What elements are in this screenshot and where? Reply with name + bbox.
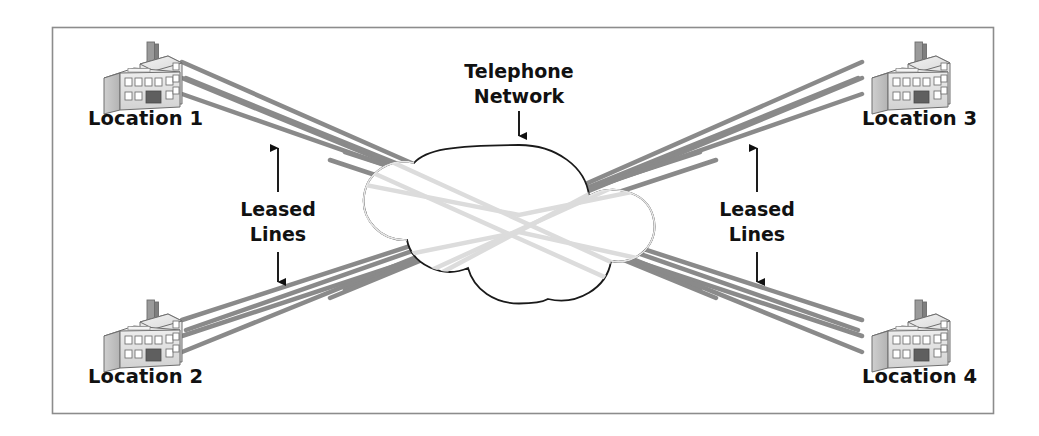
leased-lines-left-label-line2: Lines — [250, 223, 306, 245]
location-label-loc4: Location 4 — [862, 365, 977, 388]
diagram-canvas: Telephone Network Leased Lines Leased Li… — [0, 0, 1039, 436]
leased-lines-right-label-line2: Lines — [729, 223, 785, 245]
building-door — [146, 91, 161, 103]
building-door — [914, 349, 929, 361]
network-diagram-figure: Telephone Network Leased Lines Leased Li… — [0, 0, 1039, 436]
cloud-label-line1: Telephone — [464, 60, 573, 82]
location-label-loc3: Location 3 — [862, 107, 977, 130]
location-label-loc2: Location 2 — [88, 365, 203, 388]
location-label-loc1: Location 1 — [88, 107, 203, 130]
building-door — [914, 91, 929, 103]
leased-lines-left-label-line1: Leased — [240, 198, 316, 220]
building-door — [146, 349, 161, 361]
leased-lines-right-label-line1: Leased — [719, 198, 795, 220]
cloud-label-line2: Network — [474, 85, 565, 107]
